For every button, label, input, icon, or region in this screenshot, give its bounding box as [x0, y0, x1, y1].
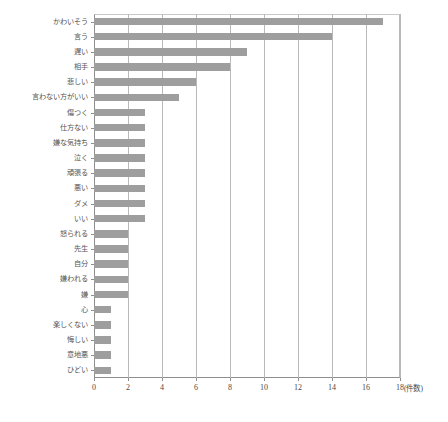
category-label: 仕方ない: [0, 124, 91, 132]
category-label: 嫌われる: [0, 275, 91, 283]
bar-row: [94, 302, 400, 317]
category-label: 嫌: [0, 291, 91, 299]
x-axis-tick-label: 6: [194, 383, 198, 392]
category-label: 怒られる: [0, 230, 91, 238]
bar-row: [94, 196, 400, 211]
x-axis-tick-labels: 024681012141618: [94, 383, 400, 397]
bar-row: [94, 14, 400, 29]
bar: [94, 109, 145, 117]
category-label: 先生: [0, 245, 91, 253]
x-axis-tick: [128, 378, 129, 381]
bar: [94, 169, 145, 177]
bar: [94, 291, 128, 299]
bar-row: [94, 60, 400, 75]
bar-row: [94, 90, 400, 105]
bar: [94, 139, 145, 147]
x-axis-tick: [332, 378, 333, 381]
bar: [94, 63, 230, 71]
category-label: 嫌な気持ち: [0, 139, 91, 147]
bar: [94, 215, 145, 223]
bar-row: [94, 166, 400, 181]
x-axis-tick: [94, 378, 95, 381]
bar: [94, 351, 111, 359]
category-label: 泣く: [0, 154, 91, 162]
bar-row: [94, 151, 400, 166]
category-label: 悪い: [0, 184, 91, 192]
bar: [94, 367, 111, 375]
x-axis-ticks: [94, 378, 400, 382]
bar: [94, 306, 111, 314]
bar: [94, 336, 111, 344]
category-label: 言う: [0, 33, 91, 41]
bar-row: [94, 181, 400, 196]
bar: [94, 124, 145, 132]
bar-row: [94, 257, 400, 272]
category-label: 自分: [0, 260, 91, 268]
bar-row: [94, 272, 400, 287]
category-label: 楽しくない: [0, 321, 91, 329]
x-axis-tick-label: 2: [126, 383, 130, 392]
bar: [94, 154, 145, 162]
x-axis-tick-label: 10: [260, 383, 268, 392]
x-axis-tick-label: 16: [362, 383, 370, 392]
bar-row: [94, 242, 400, 257]
bar-row: [94, 317, 400, 332]
bar-row: [94, 105, 400, 120]
bar-row: [94, 29, 400, 44]
bar: [94, 18, 383, 26]
bar-rows: [94, 14, 400, 378]
x-axis-tick-label: 4: [160, 383, 164, 392]
x-axis-tick-label: 18: [396, 383, 404, 392]
gridline: [400, 14, 401, 378]
category-label: 意地悪: [0, 351, 91, 359]
x-axis-tick: [264, 378, 265, 381]
category-label: 悲しい: [0, 78, 91, 86]
x-axis-tick: [298, 378, 299, 381]
bar-row: [94, 363, 400, 378]
bar-row: [94, 226, 400, 241]
bar: [94, 230, 128, 238]
x-axis-tick: [230, 378, 231, 381]
x-axis-tick: [162, 378, 163, 381]
plot-area: [94, 14, 400, 378]
category-axis: かわいそう言う遅い相手悲しい言わない方がいい傷つく仕方ない嫌な気持ち泣く頑張る悪…: [0, 14, 91, 378]
category-label: 相手: [0, 63, 91, 71]
bar: [94, 48, 247, 56]
category-label: 傷つく: [0, 109, 91, 117]
x-axis-tick: [196, 378, 197, 381]
x-axis-tick: [400, 378, 401, 381]
bar: [94, 245, 128, 253]
bar-chart: かわいそう言う遅い相手悲しい言わない方がいい傷つく仕方ない嫌な気持ち泣く頑張る悪…: [0, 0, 448, 422]
bar: [94, 78, 196, 86]
bar: [94, 200, 145, 208]
x-axis-tick-label: 8: [228, 383, 232, 392]
bar-row: [94, 120, 400, 135]
bar-row: [94, 135, 400, 150]
bar: [94, 276, 128, 284]
category-label: 遅い: [0, 48, 91, 56]
bar-row: [94, 44, 400, 59]
x-axis-unit-label: (件数): [404, 382, 423, 393]
bar: [94, 33, 332, 41]
category-label: 頑張る: [0, 169, 91, 177]
category-label: 言わない方がいい: [0, 93, 91, 101]
x-axis-tick-label: 12: [294, 383, 302, 392]
x-axis-tick-label: 0: [92, 383, 96, 392]
bar: [94, 94, 179, 102]
bar-row: [94, 211, 400, 226]
category-label: かわいそう: [0, 18, 91, 26]
category-label: ダメ: [0, 200, 91, 208]
bar-row: [94, 333, 400, 348]
bar-row: [94, 287, 400, 302]
x-axis-tick: [366, 378, 367, 381]
bar-row: [94, 348, 400, 363]
category-label: 心: [0, 306, 91, 314]
category-label: いい: [0, 215, 91, 223]
bar: [94, 321, 111, 329]
x-axis-tick-label: 14: [328, 383, 336, 392]
category-label: ひどい: [0, 366, 91, 374]
bar-row: [94, 75, 400, 90]
bar: [94, 260, 128, 268]
category-label: 悔しい: [0, 336, 91, 344]
bar: [94, 185, 145, 193]
